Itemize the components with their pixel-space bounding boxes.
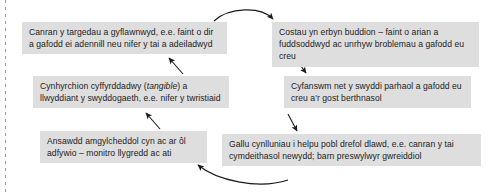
node-targets: Canran y targedau a gyflawnwyd, e.e. fai… bbox=[22, 22, 227, 54]
node-outputs-text-before: Cynhyrchion cyffyrddadwy ( bbox=[40, 81, 147, 91]
connector-capacity-to-quality bbox=[198, 165, 288, 184]
connector-outputs-to-targets bbox=[169, 58, 183, 74]
page-trim-line bbox=[5, 0, 6, 195]
node-outputs-emphasis: tangible bbox=[147, 81, 178, 91]
node-quality: Ansawdd amgylcheddol cyn ac ar ôl adfywi… bbox=[40, 131, 207, 163]
node-outputs: Cynhyrchion cyffyrddadwy (tangible) a ll… bbox=[33, 76, 229, 108]
diagram-canvas: Canran y targedau a gyflawnwyd, e.e. fai… bbox=[0, 0, 504, 195]
node-capacity: Gallu cynlluniau i helpu pobl drefol dla… bbox=[222, 134, 481, 166]
node-costs: Costau yn erbyn buddion – faint o arian … bbox=[272, 22, 479, 67]
connector-jobs-to-capacity bbox=[288, 114, 297, 131]
node-jobs: Cyfanswm net y swyddi parhaol a gafodd e… bbox=[284, 76, 471, 108]
connector-quality-to-outputs bbox=[146, 113, 160, 129]
connector-targets-to-costs bbox=[214, 10, 273, 21]
